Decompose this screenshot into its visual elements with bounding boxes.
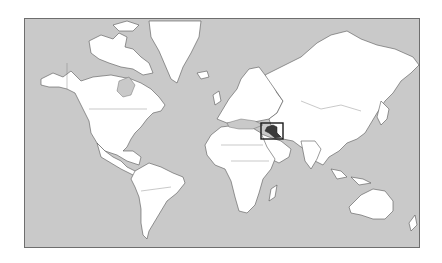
arctic-islands [89,33,153,75]
iceland [197,71,209,79]
new-guinea [351,177,371,185]
south-america [131,163,185,239]
new-zealand [409,215,417,231]
great-britain [213,91,221,105]
world-map [24,18,420,248]
madagascar [269,185,277,201]
india [301,141,321,169]
greenland [149,21,201,83]
australia [349,189,393,219]
indonesia [331,169,347,179]
world-map-svg [25,19,419,247]
asia [265,31,419,165]
ellesmere-island [113,21,139,31]
